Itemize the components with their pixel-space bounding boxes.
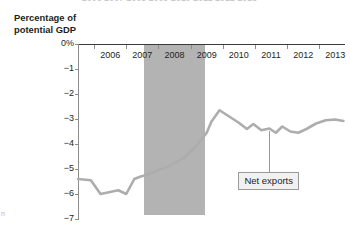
- page-mark: n: [1, 210, 5, 217]
- net-exports-callout-label: Net exports: [244, 175, 293, 186]
- callout-leader-line: [269, 131, 270, 172]
- net-exports-callout[interactable]: Net exports: [238, 172, 299, 190]
- net-exports-line: [78, 110, 343, 194]
